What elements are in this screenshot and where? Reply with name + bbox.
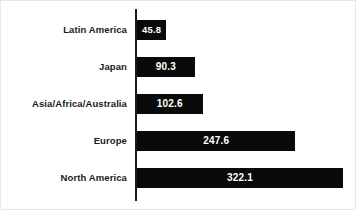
category-label: Latin America xyxy=(63,20,135,40)
bar[interactable]: 45.8 xyxy=(137,20,166,40)
bar-row: Latin America45.8 xyxy=(1,20,356,40)
category-label: Europe xyxy=(94,131,135,151)
bar-value-label: 102.6 xyxy=(137,94,203,114)
category-label: North America xyxy=(61,168,135,188)
bar-chart: Latin America45.8Japan90.3Asia/Africa/Au… xyxy=(0,0,356,210)
bar-value-label: 45.8 xyxy=(137,20,166,40)
bar[interactable]: 247.6 xyxy=(137,131,295,151)
bar-row: Asia/Africa/Australia102.6 xyxy=(1,94,356,114)
bar-row: Japan90.3 xyxy=(1,57,356,77)
bar-row: North America322.1 xyxy=(1,168,356,188)
bar[interactable]: 102.6 xyxy=(137,94,203,114)
bar-value-label: 322.1 xyxy=(137,168,343,188)
bar-value-label: 90.3 xyxy=(137,57,195,77)
bar-value-label: 247.6 xyxy=(137,131,295,151)
bar[interactable]: 90.3 xyxy=(137,57,195,77)
category-label: Japan xyxy=(99,57,135,77)
bar-row: Europe247.6 xyxy=(1,131,356,151)
plot-area: Latin America45.8Japan90.3Asia/Africa/Au… xyxy=(1,1,356,210)
bar[interactable]: 322.1 xyxy=(137,168,343,188)
category-label: Asia/Africa/Australia xyxy=(32,94,135,114)
